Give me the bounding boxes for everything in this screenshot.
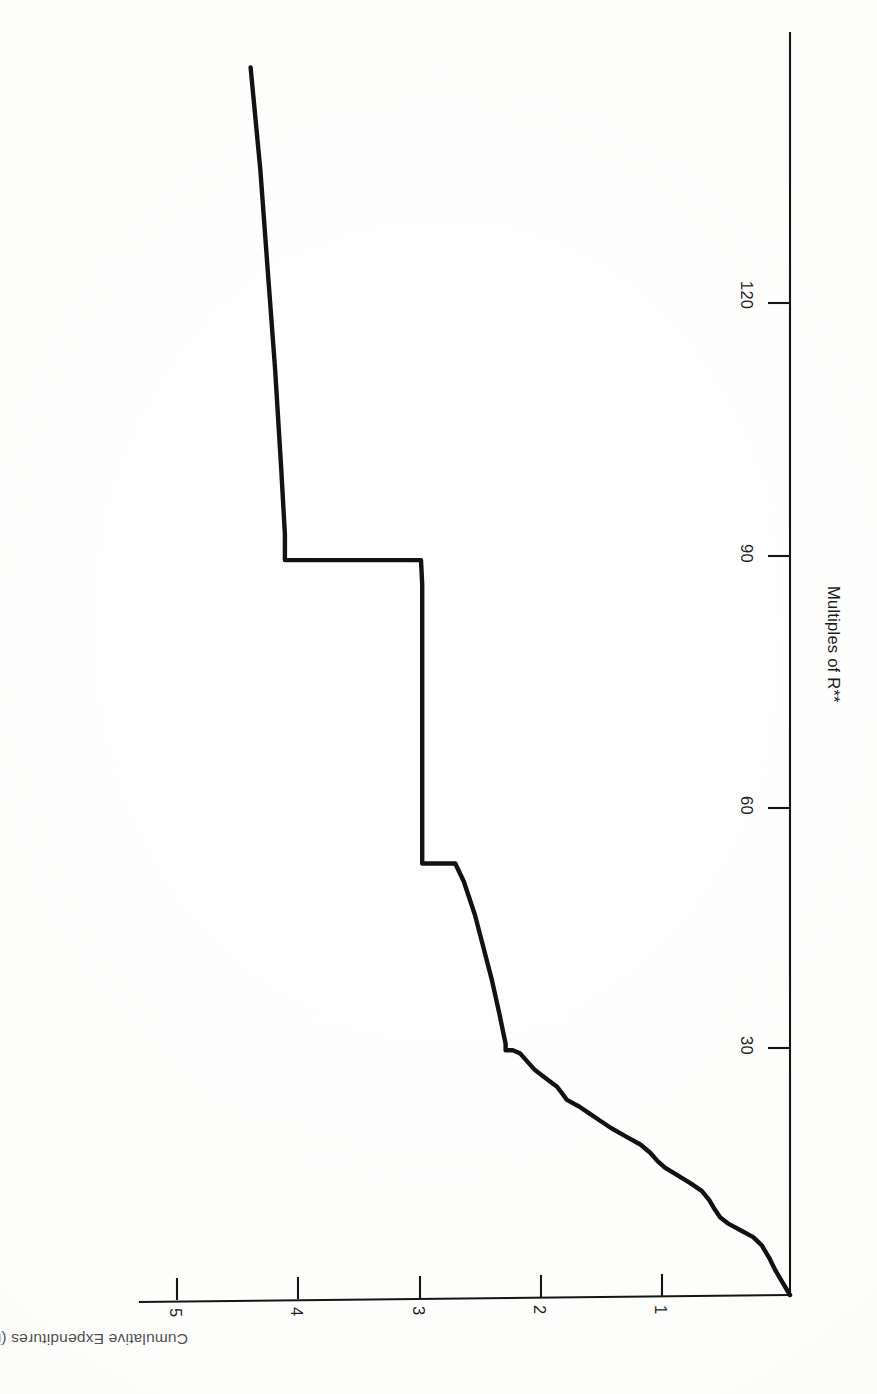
y-axis-title: Cumulative Expenditures (in millions of …	[0, 1330, 188, 1348]
chart-plot-svg	[0, 0, 877, 1394]
y-tick-label-4: 4	[289, 1307, 306, 1316]
x-tick-label-120: 120	[739, 281, 756, 309]
y-tick-label-5: 5	[168, 1308, 185, 1317]
x-tick-label-90: 90	[739, 544, 756, 563]
y-tick-label-3: 3	[411, 1306, 428, 1315]
data-curve-cumulative-expenditures	[251, 67, 790, 1295]
y-axis-line	[140, 1295, 790, 1302]
x-axis-title: Multiples of R**	[824, 586, 843, 703]
x-tick-label-60: 60	[739, 796, 756, 815]
y-tick-label-1: 1	[653, 1305, 670, 1314]
y-tick-label-2: 2	[532, 1305, 549, 1314]
chart-figure: 30 60 90 120 1 2 3 4 5 Multiples of R** …	[0, 0, 877, 1394]
x-tick-label-30: 30	[739, 1036, 756, 1055]
